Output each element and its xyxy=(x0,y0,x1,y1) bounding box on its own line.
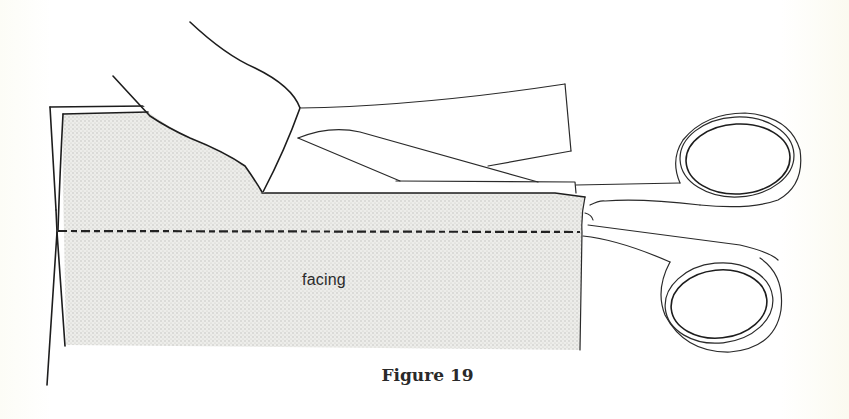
facing-label: facing xyxy=(302,271,346,289)
fabric-fold-lines xyxy=(47,210,65,385)
scissors-upper-handle xyxy=(676,113,801,207)
figure-page: facing Figure 19 xyxy=(0,0,849,419)
scissors-lower-handle xyxy=(661,258,782,352)
figure-caption: Figure 19 xyxy=(0,365,849,385)
scissors-pivot xyxy=(576,183,778,262)
sewing-illustration xyxy=(0,0,849,419)
scissors-upper-blade xyxy=(300,84,571,182)
